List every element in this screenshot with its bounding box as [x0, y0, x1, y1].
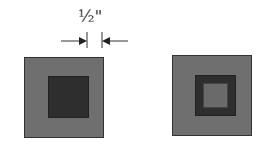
left-inner-dark-square	[48, 76, 89, 118]
left-arrowhead-icon	[79, 37, 87, 45]
right-inner-gray-square	[203, 83, 228, 108]
right-arrowhead-icon	[102, 37, 110, 45]
